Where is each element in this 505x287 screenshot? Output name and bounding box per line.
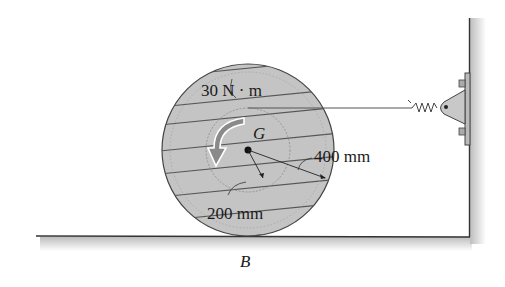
outer-radius-label: 400 mm	[314, 147, 370, 166]
wall-bracket	[441, 73, 471, 145]
center-label: G	[253, 124, 265, 143]
moment-label: 30 N · m	[201, 81, 262, 100]
contact-point-label: B	[240, 252, 251, 271]
bolt-icon	[459, 80, 465, 87]
pin-icon	[444, 105, 448, 109]
floor-shadow	[40, 237, 472, 251]
figure-canvas: 30 N · m G 400 mm 200 mm B	[0, 0, 505, 287]
spring-end	[408, 100, 411, 103]
wall-shadow	[470, 18, 486, 244]
bolt-icon	[459, 128, 465, 135]
spring-icon	[412, 103, 437, 112]
inner-radius-label: 200 mm	[207, 204, 263, 223]
